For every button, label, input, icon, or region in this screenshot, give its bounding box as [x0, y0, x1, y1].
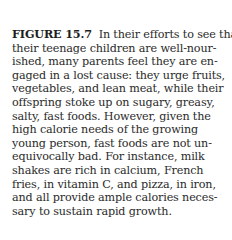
caption-line: offspring stoke up on sugary, greasy, [12, 96, 228, 110]
caption-line: their teenage children are well-nour- [12, 42, 228, 56]
caption-line: ished, many parents feel they are en- [12, 55, 228, 69]
caption-line: sary to sustain rapid growth. [12, 205, 228, 219]
caption-line: FIGURE 15.7 In their efforts to see that [12, 28, 228, 42]
figure-label: FIGURE 15.7 [12, 27, 92, 41]
caption-line: young person, fast foods are not un- [12, 137, 228, 151]
caption-line: vegetables, and lean meat, while their [12, 82, 228, 96]
caption-line: high calorie needs of the growing [12, 123, 228, 137]
caption-line: equivocally bad. For instance, milk [12, 150, 228, 164]
caption-line: fries, in vitamin C, and pizza, in iron, [12, 178, 228, 192]
caption-line: and all provide ample calories neces- [12, 191, 228, 205]
caption-line: gaged in a lost cause: they urge fruits, [12, 69, 228, 83]
caption-line: salty, fast foods. However, given the [12, 110, 228, 124]
figure-caption: FIGURE 15.7 In their efforts to see that… [12, 28, 228, 218]
caption-line: shakes are rich in calcium, French [12, 164, 228, 178]
